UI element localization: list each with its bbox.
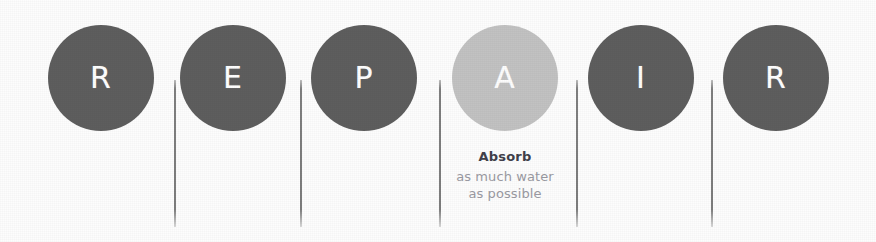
divider-1 (174, 80, 176, 227)
caption-line-2: as possible (440, 185, 570, 203)
divider-5 (711, 80, 713, 227)
step-letter-4: A (494, 63, 516, 93)
step-circle-6[interactable]: R (723, 25, 829, 131)
step-circle-4[interactable]: A (452, 25, 558, 131)
step-circle-3[interactable]: P (311, 25, 417, 131)
divider-2 (300, 80, 302, 227)
step-circle-5[interactable]: I (588, 25, 694, 131)
divider-4 (576, 80, 578, 227)
step-letter-2: E (223, 63, 243, 93)
step-letter-5: I (636, 63, 646, 93)
caption-title: Absorb (440, 148, 570, 166)
step-caption-4: Absorb as much water as possible (440, 148, 570, 203)
step-letter-6: R (765, 63, 787, 93)
step-circle-1[interactable]: R (48, 25, 154, 131)
step-circle-2[interactable]: E (180, 25, 286, 131)
repair-acronym-figure: R E P A Absorb as much water as possible (0, 0, 876, 242)
caption-line-1: as much water (440, 168, 570, 186)
step-letter-1: R (90, 63, 112, 93)
step-letter-3: P (354, 63, 373, 93)
